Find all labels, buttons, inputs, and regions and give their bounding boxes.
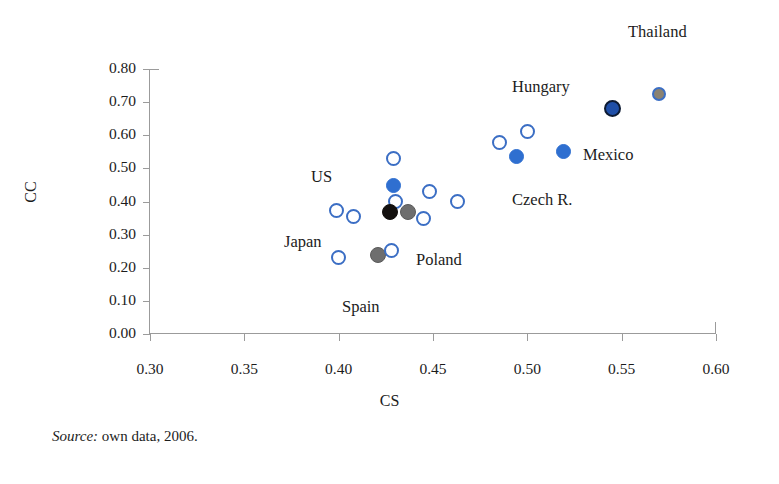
source-note-prefix: Source: xyxy=(52,428,98,444)
annotation-label-hungary: Hungary xyxy=(512,77,570,97)
y-tick-label: 0.50 xyxy=(80,158,136,176)
x-tick xyxy=(244,334,245,341)
y-tick xyxy=(143,235,150,236)
y-tick xyxy=(143,135,150,136)
data-point-0 xyxy=(329,203,344,218)
y-tick-label: 0.20 xyxy=(80,258,136,276)
annotation-label-spain: Spain xyxy=(342,297,380,317)
y-tick xyxy=(143,334,150,335)
y-axis-top-cap xyxy=(149,69,159,70)
x-tick-label: 0.30 xyxy=(120,360,180,378)
x-tick xyxy=(433,334,434,341)
data-point-hungary xyxy=(604,100,621,117)
data-point-1 xyxy=(346,209,361,224)
y-tick-label: 0.60 xyxy=(80,125,136,143)
x-tick xyxy=(150,334,151,341)
annotation-label-thailand: Thailand xyxy=(628,22,687,42)
y-tick xyxy=(143,301,150,302)
data-point-4 xyxy=(386,178,401,193)
data-point-10 xyxy=(450,194,465,209)
y-tick xyxy=(143,168,150,169)
y-tick-label: 0.70 xyxy=(80,92,136,110)
annotation-label-japan: Japan xyxy=(284,232,322,252)
annotation-label-poland: Poland xyxy=(416,250,462,270)
annotation-label-czech: Czech R. xyxy=(512,190,572,210)
y-tick xyxy=(143,102,150,103)
data-point-mexico xyxy=(556,144,571,159)
x-tick-label: 0.55 xyxy=(592,360,652,378)
data-point-us xyxy=(382,204,398,220)
data-point-13 xyxy=(492,135,507,150)
annotation-label-us: US xyxy=(311,167,332,187)
y-tick-label: 0.80 xyxy=(80,59,136,77)
x-tick-label: 0.60 xyxy=(686,360,746,378)
y-tick-label: 0.30 xyxy=(80,225,136,243)
y-tick-label: 0.10 xyxy=(80,291,136,309)
x-tick xyxy=(622,334,623,341)
data-point-8 xyxy=(416,211,431,226)
y-tick-label: 0.00 xyxy=(80,324,136,342)
y-axis-title: CC xyxy=(22,165,40,219)
data-point-9 xyxy=(422,184,437,199)
data-point-poland xyxy=(400,204,416,220)
x-tick xyxy=(527,334,528,341)
x-tick-label: 0.35 xyxy=(214,360,274,378)
x-axis-end-cap xyxy=(715,322,716,334)
plot-area: 0.300.350.400.450.500.550.60 0.000.100.2… xyxy=(0,0,779,420)
annotation-label-mexico: Mexico xyxy=(583,145,633,165)
data-point-14 xyxy=(520,124,535,139)
y-tick xyxy=(143,268,150,269)
data-point-czech-r xyxy=(509,149,524,164)
x-tick xyxy=(339,334,340,341)
source-note: Source: own data, 2006. xyxy=(52,428,198,445)
y-tick xyxy=(143,202,150,203)
x-tick xyxy=(716,334,717,341)
source-note-text: own data, 2006. xyxy=(102,428,198,444)
y-tick xyxy=(143,69,150,70)
scatter-figure: 0.300.350.400.450.500.550.60 0.000.100.2… xyxy=(0,0,779,484)
data-point-3 xyxy=(386,151,401,166)
x-tick-label: 0.45 xyxy=(403,360,463,378)
x-tick-label: 0.50 xyxy=(497,360,557,378)
data-point-12 xyxy=(384,243,399,258)
data-point-thailand xyxy=(652,87,666,101)
data-point-2 xyxy=(331,250,346,265)
x-tick-label: 0.40 xyxy=(309,360,369,378)
x-axis-title: CS xyxy=(0,392,779,410)
y-tick-label: 0.40 xyxy=(80,192,136,210)
